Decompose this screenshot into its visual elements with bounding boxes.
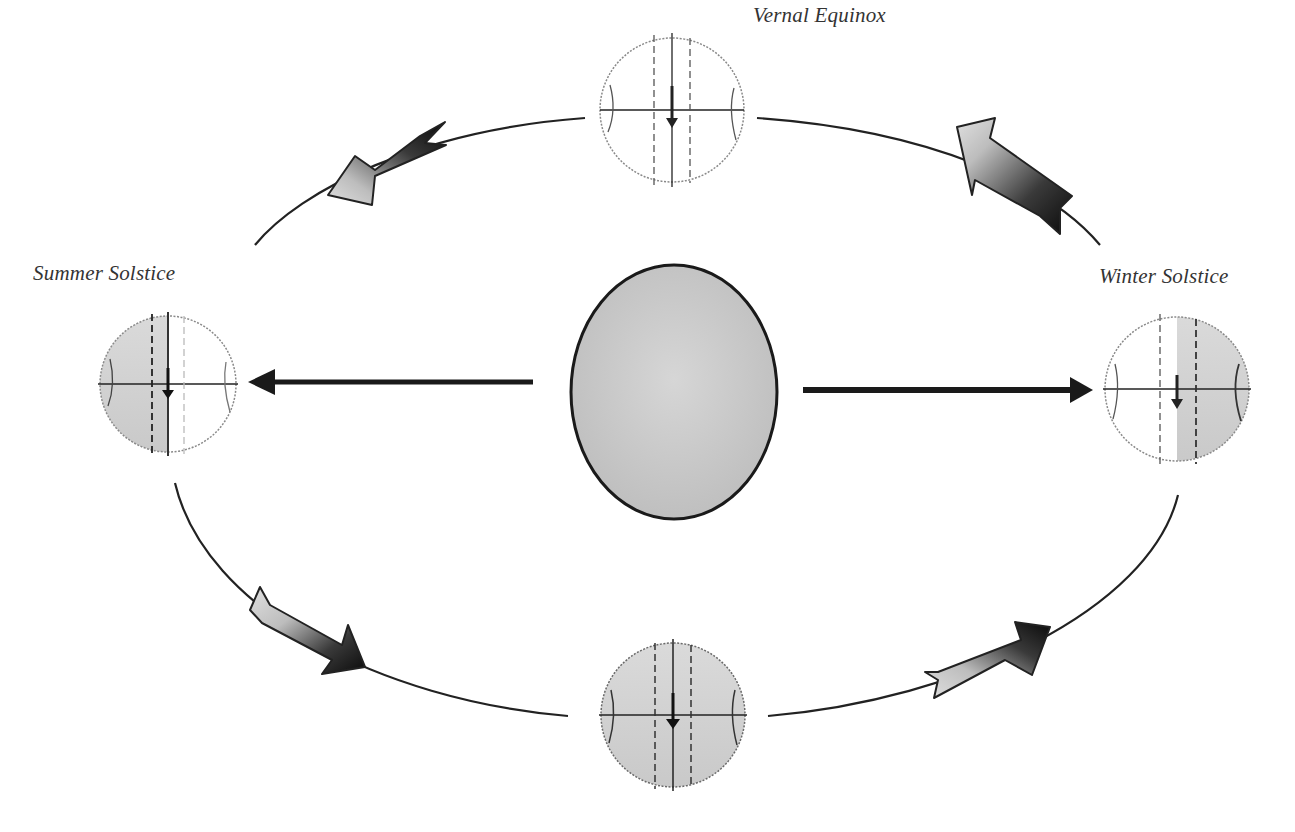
orbit-arrow-bottom-left (250, 587, 365, 674)
orbit-arrow-top-right (957, 118, 1072, 234)
radial-arrow-left (248, 369, 533, 395)
sun (571, 265, 777, 519)
globe-vernal-equinox (600, 33, 744, 187)
radial-arrow-right (803, 377, 1093, 403)
orbit-arrow-top-left (328, 122, 446, 205)
orbit-segment-bottom-right (768, 495, 1178, 716)
diagram-canvas (0, 0, 1295, 832)
globe-summer-solstice (98, 312, 238, 456)
globe-autumnal-equinox (599, 639, 747, 791)
label-vernal-equinox: Vernal Equinox (753, 3, 886, 28)
orbit-arrow-bottom-right (925, 622, 1050, 698)
globe-winter-solstice (1103, 314, 1252, 464)
label-summer-solstice: Summer Solstice (33, 261, 175, 286)
orbit-diagram: Vernal Equinox Summer Solstice Winter So… (0, 0, 1295, 832)
label-winter-solstice: Winter Solstice (1099, 264, 1229, 289)
orbit-segment-bottom-left (175, 483, 568, 716)
